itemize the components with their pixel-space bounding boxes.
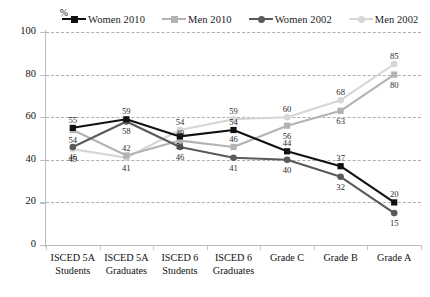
series-marker	[123, 152, 129, 158]
series-marker	[230, 144, 236, 150]
data-point-label: 55	[61, 115, 85, 125]
series-marker	[284, 114, 291, 121]
series-layer	[0, 0, 430, 297]
data-point-label: 41	[222, 163, 246, 173]
data-point-label: 85	[382, 51, 406, 61]
series-marker	[391, 210, 398, 217]
series-marker	[338, 163, 344, 169]
data-point-label: 46	[222, 134, 246, 144]
data-point-label: 59	[222, 106, 246, 116]
series-marker	[338, 108, 344, 114]
data-point-label: 58	[114, 126, 138, 136]
data-point-label: 32	[329, 182, 353, 192]
data-point-label: 41	[114, 163, 138, 173]
series-marker	[123, 116, 129, 122]
series-marker	[230, 154, 237, 161]
series-marker	[284, 148, 290, 154]
data-point-label: 54	[222, 117, 246, 127]
series-marker	[337, 97, 344, 104]
series-marker	[70, 125, 76, 131]
data-point-label: 54	[168, 117, 192, 127]
series-marker	[391, 61, 398, 68]
data-point-label: 68	[329, 87, 353, 97]
data-point-label: 46	[168, 152, 192, 162]
data-point-label: 44	[275, 138, 299, 148]
data-point-label: 63	[329, 116, 353, 126]
data-point-label: 80	[382, 80, 406, 90]
data-point-label: 51	[168, 141, 192, 151]
data-point-label: 59	[114, 106, 138, 116]
data-point-label: 15	[382, 218, 406, 228]
series-marker	[284, 123, 290, 129]
data-point-label: 37	[329, 153, 353, 163]
series-marker	[391, 72, 397, 78]
data-point-label: 46	[61, 152, 85, 162]
data-point-label: 20	[382, 189, 406, 199]
series-marker	[284, 157, 291, 164]
data-point-label: 42	[114, 143, 138, 153]
series-marker	[230, 127, 236, 133]
series-marker	[337, 174, 344, 181]
series-marker	[391, 199, 397, 205]
line-chart: Women 2010Men 2010Women 2002Men 2002 % 0…	[0, 0, 430, 297]
data-point-label: 54	[61, 135, 85, 145]
data-point-label: 49	[168, 128, 192, 138]
data-point-label: 40	[275, 165, 299, 175]
data-point-label: 60	[275, 104, 299, 114]
